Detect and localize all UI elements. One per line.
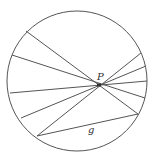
point-p-marker bbox=[97, 84, 101, 87]
point-p-label: P bbox=[96, 71, 104, 82]
chord-g-label: g bbox=[88, 124, 94, 135]
circle-chords-diagram: P g bbox=[0, 0, 158, 161]
chord-3 bbox=[10, 81, 147, 93]
chord-1 bbox=[26, 31, 138, 114]
chords-through-p bbox=[10, 31, 147, 136]
